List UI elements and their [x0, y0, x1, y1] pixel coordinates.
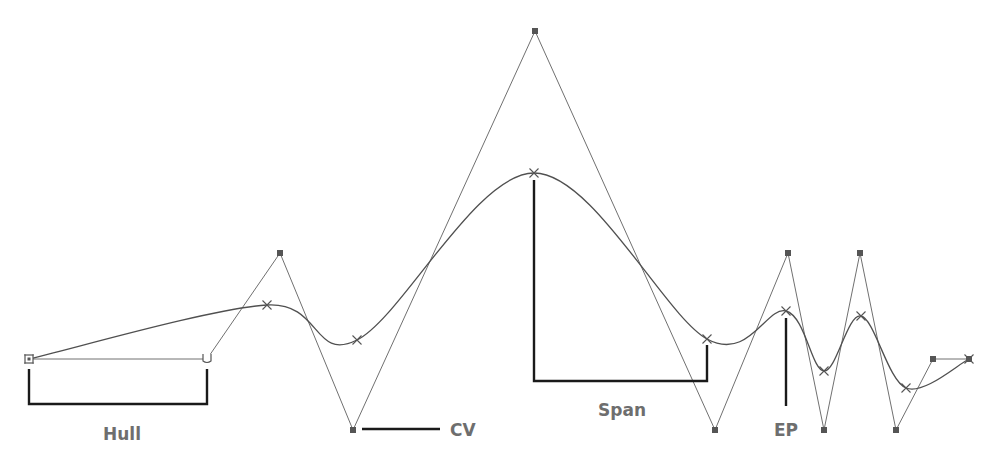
control-vertex-marker: [930, 356, 936, 362]
edit-point-marker: [820, 367, 829, 376]
nurbs-diagram: Hull CV Span EP: [0, 0, 997, 470]
callouts-group: [29, 180, 786, 429]
hull-line: [29, 31, 969, 430]
control-vertex-marker: [785, 250, 791, 256]
edit-point-marker: [902, 384, 911, 393]
control-vertex-marker: [966, 356, 972, 362]
control-vertex-marker: [712, 427, 718, 433]
edit-point-marker: [353, 336, 362, 345]
control-vertex-marker: [857, 250, 863, 256]
ep-label: EP: [774, 420, 798, 440]
control-vertex-marker: [893, 427, 899, 433]
hull-bracket: [29, 369, 207, 404]
control-vertex-marker: [821, 427, 827, 433]
control-vertex-marker: [532, 28, 538, 34]
hull-label: Hull: [103, 424, 141, 444]
first-cv-dot: [28, 358, 31, 361]
control-vertex-marker: [277, 250, 283, 256]
second-cv-u-marker: [203, 354, 211, 363]
control-vertices-group: [25, 28, 972, 433]
nurbs-curve-group: [29, 173, 969, 389]
cv-label: CV: [450, 420, 476, 440]
span-bracket: [534, 180, 707, 381]
hull-polyline-group: [29, 31, 969, 430]
span-label: Span: [598, 400, 646, 420]
nurbs-curve: [29, 173, 969, 389]
control-vertex-marker: [350, 427, 356, 433]
edit-point-marker: [703, 335, 712, 344]
